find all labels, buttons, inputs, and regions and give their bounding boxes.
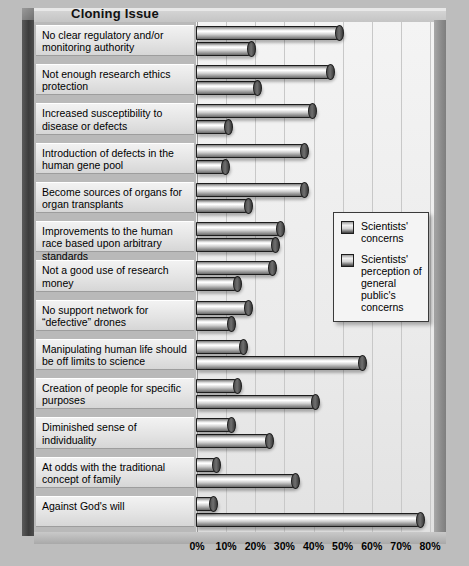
bar-end-cap <box>227 316 236 332</box>
bar-body <box>196 513 424 527</box>
bar-end-cap <box>311 394 320 410</box>
bar-scientists <box>196 340 247 354</box>
gridline-30 <box>284 22 285 532</box>
bar-end-cap <box>253 80 262 96</box>
bar-end-cap <box>416 512 425 528</box>
bar-public <box>196 356 366 370</box>
gridline-20 <box>255 22 256 532</box>
bar-body <box>196 81 261 95</box>
bar-public <box>196 160 229 174</box>
bar-body <box>196 144 308 158</box>
legend-swatch-scientists-icon <box>341 221 354 234</box>
bar-end-cap <box>244 198 253 214</box>
legend-item-scientists-concerns: Scientists' concerns <box>341 220 422 244</box>
bar-end-cap <box>265 433 274 449</box>
category-label: Not enough research ethics protection <box>36 64 194 95</box>
legend-label-scientists: Scientists' concerns <box>361 220 422 244</box>
bar-end-cap <box>239 339 248 355</box>
bar-end-cap <box>209 496 218 512</box>
bar-end-cap <box>308 103 317 119</box>
bar-body <box>196 65 334 79</box>
bar-body <box>196 434 273 448</box>
bar-body <box>196 183 308 197</box>
bar-public <box>196 238 279 252</box>
bar-scientists <box>196 261 276 275</box>
bar-body <box>196 395 319 409</box>
bar-scientists <box>196 301 252 315</box>
x-tick-label: 30% <box>274 540 295 552</box>
category-label: Diminished sense of individuality <box>36 417 194 448</box>
bar-end-cap <box>244 300 253 316</box>
bar-body <box>196 474 299 488</box>
bar-scientists <box>196 458 220 472</box>
bar-body <box>196 104 316 118</box>
category-label: Become sources of organs for organ trans… <box>36 182 194 213</box>
bar-end-cap <box>221 159 230 175</box>
bar-public <box>196 81 261 95</box>
bar-scientists <box>196 379 241 393</box>
chart-left-wall <box>22 20 34 536</box>
x-tick-label: 50% <box>332 540 353 552</box>
bar-scientists <box>196 65 334 79</box>
bar-end-cap <box>233 276 242 292</box>
legend-swatch-public-icon <box>341 254 354 267</box>
bar-body <box>196 26 343 40</box>
bar-end-cap <box>271 237 280 253</box>
chart-legend: Scientists' concerns Scientists' percept… <box>333 212 429 322</box>
bar-public <box>196 513 424 527</box>
bar-public <box>196 199 252 213</box>
legend-item-public-perception: Scientists' perception of general public… <box>341 253 422 313</box>
bar-end-cap <box>335 25 344 41</box>
chart-title: Cloning Issue <box>34 4 196 24</box>
bar-body <box>196 238 279 252</box>
x-tick-label: 0% <box>189 540 204 552</box>
x-tick-label: 70% <box>390 540 411 552</box>
category-label: Creation of people for specific purposes <box>36 378 194 409</box>
bar-scientists <box>196 144 308 158</box>
category-label: At odds with the traditional concept of … <box>36 457 194 488</box>
category-label: Not a good use of research money <box>36 260 194 291</box>
category-label: Increased susceptibility to disease or d… <box>36 103 194 134</box>
bar-end-cap <box>233 378 242 394</box>
x-tick-label: 10% <box>216 540 237 552</box>
x-axis-ticks: 0%10%20%30%40%50%60%70%80% <box>196 540 446 556</box>
gridline-80 <box>430 22 431 532</box>
bar-scientists <box>196 26 343 40</box>
x-tick-label: 60% <box>361 540 382 552</box>
bar-public <box>196 395 319 409</box>
bar-end-cap <box>268 260 277 276</box>
bar-end-cap <box>212 457 221 473</box>
x-tick-label: 40% <box>303 540 324 552</box>
bar-scientists <box>196 497 217 511</box>
bar-scientists <box>196 104 316 118</box>
bar-body <box>196 222 284 236</box>
chart-stage: Cloning Issue Scientists' concerns Scien… <box>0 0 469 566</box>
bar-public <box>196 120 232 134</box>
bar-end-cap <box>227 417 236 433</box>
bar-end-cap <box>300 182 309 198</box>
bar-public <box>196 277 241 291</box>
bar-scientists <box>196 222 284 236</box>
category-label: Introduction of defects in the human gen… <box>36 143 194 174</box>
bar-public <box>196 317 235 331</box>
bar-public <box>196 434 273 448</box>
gridline-40 <box>314 22 315 532</box>
category-label: Manipulating human life should be off li… <box>36 339 194 370</box>
bar-public <box>196 474 299 488</box>
legend-label-public: Scientists' perception of general public… <box>361 253 422 313</box>
bar-public <box>196 42 255 56</box>
bar-body <box>196 261 276 275</box>
category-label: No support network for “defective” drone… <box>36 300 194 331</box>
bar-end-cap <box>291 473 300 489</box>
x-tick-label: 20% <box>245 540 266 552</box>
bar-end-cap <box>224 119 233 135</box>
category-label: Against God's will <box>36 496 194 527</box>
category-label: Improvements to the human race based upo… <box>36 221 194 252</box>
bar-body <box>196 356 366 370</box>
bar-scientists <box>196 418 235 432</box>
bar-end-cap <box>358 355 367 371</box>
bar-scientists <box>196 183 308 197</box>
x-tick-label: 80% <box>419 540 440 552</box>
bar-end-cap <box>300 143 309 159</box>
chart-right-wall <box>434 20 446 532</box>
